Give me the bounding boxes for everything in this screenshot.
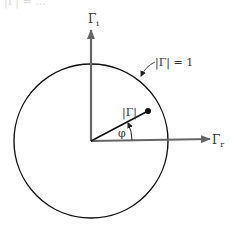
- imaginary-axis-label: Γi: [88, 12, 99, 28]
- top-text-fragment: |Γ| = ...: [4, 0, 46, 9]
- leader-arrow-icon: [141, 62, 155, 76]
- real-axis: [91, 139, 210, 141]
- angle-label: φ: [118, 127, 126, 140]
- real-axis-label: Γr: [212, 133, 224, 149]
- unit-circle-label: |Γ| = 1: [155, 56, 193, 70]
- angle-arc-icon: [128, 123, 132, 140]
- reflection-diagram: |Γ| = ... Γi Γr |Γ| = 1 |Γ| φ: [0, 0, 238, 235]
- magnitude-label: |Γ|: [122, 106, 137, 120]
- gamma-point: [145, 108, 151, 114]
